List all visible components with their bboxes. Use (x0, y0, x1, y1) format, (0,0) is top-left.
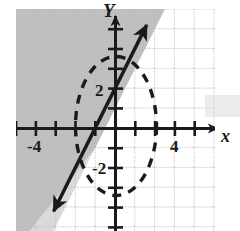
graph-figure: Y x -4 4 2 -2 (0, 0, 240, 231)
coordinate-plane-svg: Y x -4 4 2 -2 (0, 0, 240, 231)
scan-artifact-edge (0, 0, 240, 231)
